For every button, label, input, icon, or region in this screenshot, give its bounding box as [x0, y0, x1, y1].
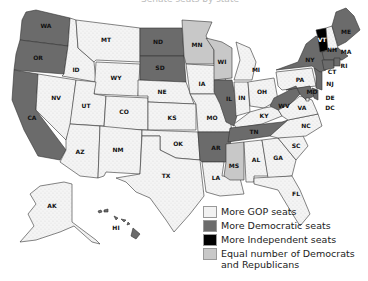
- legend-label-ind: More Independent seats: [221, 234, 336, 245]
- legend-label-dem: More Democratic seats: [221, 220, 331, 231]
- state-label-az: AZ: [76, 148, 86, 155]
- state-label-ga: GA: [273, 154, 283, 161]
- state-label-wi: WI: [218, 58, 227, 65]
- state-label-id: ID: [72, 66, 79, 73]
- state-label-ks: KS: [168, 114, 177, 121]
- state-label-ct: CT: [328, 68, 337, 75]
- state-label-ut: UT: [82, 102, 92, 109]
- state-label-wa: WA: [41, 22, 52, 29]
- state-label-nv: NV: [51, 94, 61, 101]
- state-label-nc: NC: [301, 122, 311, 129]
- state-label-tx: TX: [162, 172, 171, 179]
- swatch-dem: [203, 220, 217, 232]
- state-label-oh: OH: [257, 88, 267, 95]
- state-label-mt: MT: [101, 36, 112, 43]
- state-label-de: DE: [325, 94, 334, 101]
- state-label-dc: DC: [325, 104, 335, 111]
- state-label-or: OR: [33, 54, 43, 61]
- state-label-mo: MO: [206, 114, 217, 121]
- state-label-nh: NH: [327, 46, 337, 53]
- state-label-al: AL: [252, 156, 261, 163]
- state-label-il: IL: [226, 95, 232, 102]
- state-label-ri: RI: [341, 62, 348, 69]
- swatch-ind: [203, 234, 217, 246]
- state-label-ma: MA: [341, 48, 352, 55]
- state-label-co: CO: [119, 108, 129, 115]
- state-label-md: MD: [307, 88, 318, 95]
- state-label-hi: HI: [112, 224, 119, 231]
- state-label-nm: NM: [113, 146, 124, 153]
- state-label-mn: MN: [192, 41, 203, 48]
- state-label-ne: NE: [157, 88, 166, 95]
- state-label-wv: WV: [278, 102, 290, 109]
- legend-label-gop: More GOP seats: [221, 206, 296, 217]
- swatch-gop: [203, 206, 217, 218]
- legend-label-equal: Equal number of Democrats and Republican…: [221, 248, 355, 270]
- state-label-sd: SD: [155, 64, 164, 71]
- state-label-ok: OK: [173, 140, 183, 147]
- state-label-me: ME: [341, 28, 351, 35]
- state-label-ms: MS: [229, 162, 239, 169]
- legend-item-dem: More Democratic seats: [203, 220, 355, 234]
- state-label-ky: KY: [260, 112, 270, 119]
- state-label-ca: CA: [27, 114, 36, 121]
- state-RI: [334, 58, 340, 66]
- state-DC: [306, 98, 309, 101]
- state-label-in: IN: [238, 94, 245, 101]
- legend-item-ind: More Independent seats: [203, 234, 355, 248]
- state-label-nd: ND: [153, 38, 163, 45]
- state-label-la: LA: [212, 174, 221, 181]
- state-label-ar: AR: [211, 144, 221, 151]
- legend-item-gop: More GOP seats: [203, 206, 355, 220]
- state-MI: [234, 42, 256, 80]
- legend-item-equal: Equal number of Democrats and Republican…: [203, 248, 355, 274]
- state-label-pa: PA: [296, 76, 305, 83]
- state-label-va: VA: [298, 104, 307, 111]
- state-label-nj: NJ: [326, 80, 333, 88]
- state-label-fl: FL: [292, 190, 300, 197]
- state-label-ia: IA: [199, 80, 206, 87]
- state-label-vt: VT: [318, 36, 328, 43]
- state-AK: [20, 182, 100, 244]
- state-label-ny: NY: [305, 56, 315, 63]
- state-label-wy: WY: [111, 74, 123, 81]
- state-label-ak: AK: [47, 202, 57, 209]
- legend: More GOP seats More Democratic seats Mor…: [203, 206, 355, 274]
- state-label-sc: SC: [292, 142, 301, 149]
- swatch-equal: [203, 248, 217, 260]
- state-label-tn: TN: [249, 128, 258, 135]
- state-label-mi: MI: [252, 66, 260, 73]
